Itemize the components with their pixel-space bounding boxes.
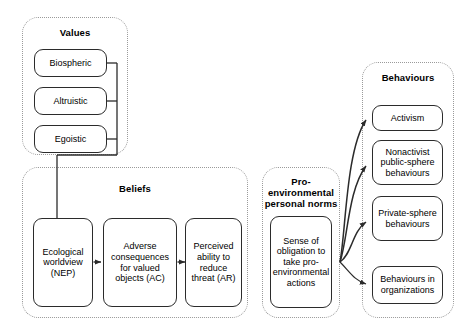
group-values-title: Values bbox=[22, 27, 128, 38]
node-adverse-consequences[interactable]: Adverse consequences for valued objects … bbox=[103, 218, 177, 307]
node-sense-of-obligation[interactable]: Sense of obligation to take pro-environm… bbox=[270, 216, 332, 308]
node-perceived-ability[interactable]: Perceived ability to reduce threat (AR) bbox=[185, 218, 242, 307]
node-sense-of-obligation-label: Sense of obligation to take pro-environm… bbox=[273, 236, 330, 289]
node-nonactivist-public-sphere[interactable]: Nonactivist public-sphere behaviours bbox=[372, 140, 443, 185]
node-private-sphere-label: Private-sphere behaviours bbox=[375, 208, 440, 229]
node-biospheric[interactable]: Biospheric bbox=[34, 49, 107, 77]
diagram-canvas: Values Biospheric Altruistic Egoistic Be… bbox=[0, 0, 461, 330]
node-egoistic[interactable]: Egoistic bbox=[34, 125, 107, 153]
group-personal-norms-title: Pro-environmental personal norms bbox=[264, 176, 338, 209]
node-adverse-consequences-label: Adverse consequences for valued objects … bbox=[106, 241, 174, 283]
node-altruistic-label: Altruistic bbox=[53, 96, 87, 107]
node-activism-label: Activism bbox=[391, 113, 425, 124]
node-private-sphere[interactable]: Private-sphere behaviours bbox=[372, 196, 443, 241]
node-nonactivist-public-sphere-label: Nonactivist public-sphere behaviours bbox=[375, 147, 440, 179]
node-perceived-ability-label: Perceived ability to reduce threat (AR) bbox=[188, 241, 239, 283]
node-activism[interactable]: Activism bbox=[372, 105, 443, 131]
group-behaviours-title: Behaviours bbox=[362, 72, 454, 83]
node-behaviours-in-organizations-label: Behaviours in organizations bbox=[375, 274, 440, 295]
node-altruistic[interactable]: Altruistic bbox=[34, 87, 107, 115]
node-behaviours-in-organizations[interactable]: Behaviours in organizations bbox=[372, 266, 443, 304]
node-biospheric-label: Biospheric bbox=[49, 58, 91, 69]
node-ecological-worldview-label: Ecological worldview (NEP) bbox=[36, 247, 90, 279]
node-ecological-worldview[interactable]: Ecological worldview (NEP) bbox=[33, 218, 93, 307]
group-beliefs-title: Beliefs bbox=[22, 183, 248, 194]
node-egoistic-label: Egoistic bbox=[55, 134, 87, 145]
